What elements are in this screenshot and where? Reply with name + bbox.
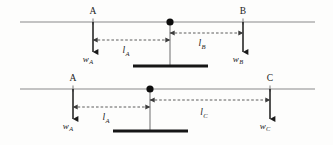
- dimension-label-top-lA: lA: [122, 45, 130, 57]
- point-label-bottom-A: A: [70, 73, 77, 83]
- support-bar-top: [133, 65, 208, 68]
- point-label-bottom-C: C: [267, 73, 273, 83]
- force-label-bottom-A: wA: [63, 121, 73, 132]
- diagram-canvas: AwABwBlAlBAwACwClAlC: [0, 0, 333, 145]
- force-label-bottom-C: wC: [260, 121, 271, 132]
- dimension-label-bottom-lA: lA: [102, 112, 110, 124]
- support-bar-bottom: [113, 130, 188, 133]
- diagram-top: AwABwBlAlB: [20, 6, 315, 68]
- force-label-top-A: wA: [83, 54, 93, 65]
- force-label-top-B: wB: [233, 54, 243, 65]
- point-label-top-A: A: [90, 6, 97, 16]
- dimension-label-top-lB: lB: [198, 38, 205, 50]
- dimension-label-bottom-lC: lC: [200, 107, 208, 119]
- pivot-dot-bottom: [146, 85, 153, 92]
- diagram-bottom: AwACwClAlC: [20, 73, 315, 133]
- point-label-top-B: B: [240, 6, 246, 16]
- pivot-dot-top: [166, 18, 173, 25]
- lever-moment-figure: AwABwBlAlBAwACwClAlC: [0, 0, 333, 145]
